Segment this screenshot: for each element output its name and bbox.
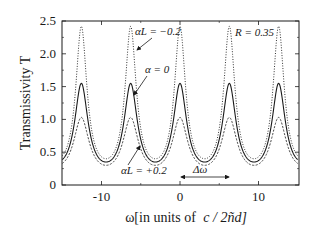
curve-alpha-0 [62, 83, 298, 162]
annotation-reflectivity: R = 0.35 [234, 26, 274, 38]
x-axis-title: ω[in units of c / 2ñd] [125, 210, 247, 225]
y-tick-label: 0.5 [40, 144, 56, 159]
x-tick-label: 0 [177, 189, 184, 204]
annotation-arrow-pos [128, 146, 140, 165]
x-tick-labels: -10010 [93, 189, 265, 204]
y-axis-title: Transmissivity T [18, 55, 33, 150]
transmissivity-chart: 00.51.01.52.02.5 -10010 Transmissivity T… [0, 0, 312, 232]
curve-alphaL-minus-0.2 [62, 26, 298, 159]
y-tick-label: 2.0 [40, 46, 56, 61]
annotation-alphaL-neg: αL = −0.2 [135, 25, 181, 37]
x-tick-label: -10 [93, 189, 110, 204]
y-tick-labels: 00.51.01.52.02.5 [40, 13, 56, 192]
annotation-arrow-neg [137, 38, 152, 50]
annotation-alphaL-pos: αL = +0.2 [121, 164, 167, 176]
y-tick-label: 1.5 [40, 79, 56, 94]
y-tick-label: 1.0 [40, 111, 56, 126]
curve-alphaL-plus-0.2 [62, 117, 298, 165]
x-tick-label: 10 [252, 189, 265, 204]
annotation-delta-omega: Δω [192, 163, 207, 175]
y-tick-label: 2.5 [40, 13, 56, 28]
y-tick-label: 0 [50, 177, 57, 192]
annotation-alpha-zero: α = 0 [145, 63, 170, 75]
